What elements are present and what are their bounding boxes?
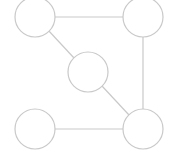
node-layer xyxy=(15,0,163,149)
bottom-right-node[interactable] xyxy=(123,109,163,149)
edge-topleft-center xyxy=(48,30,74,58)
center-node[interactable] xyxy=(68,52,108,92)
diagram-canvas xyxy=(0,0,170,154)
bottom-left-node[interactable] xyxy=(15,109,55,149)
top-right-node[interactable] xyxy=(123,0,163,37)
top-left-node[interactable] xyxy=(15,0,55,37)
graph-svg xyxy=(0,0,170,154)
edge-center-bottomright xyxy=(102,86,129,115)
